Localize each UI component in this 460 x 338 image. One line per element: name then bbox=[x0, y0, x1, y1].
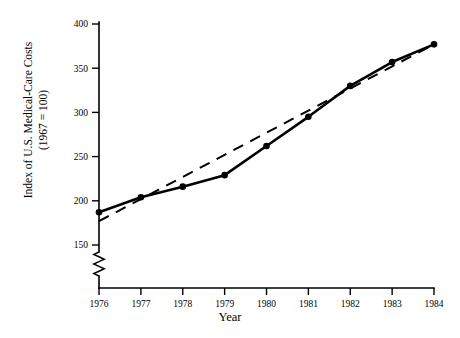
data-point-1977 bbox=[138, 194, 145, 201]
chart-figure: 1502002503003504001976197719781979198019… bbox=[0, 0, 460, 338]
y-axis-title: Index of U.S. Medical-Care Costs (1967 =… bbox=[21, 30, 51, 210]
data-point-1979 bbox=[221, 172, 228, 179]
y-axis-title-line1: Index of U.S. Medical-Care Costs bbox=[21, 30, 36, 210]
y-tick-label-400: 400 bbox=[74, 19, 89, 29]
x-axis-title: Year bbox=[0, 310, 460, 325]
y-tick-label-350: 350 bbox=[74, 64, 89, 74]
x-tick-label-1983: 1983 bbox=[383, 299, 402, 309]
data-line-solid bbox=[99, 44, 434, 212]
data-point-1981 bbox=[305, 114, 312, 121]
tick-marks-group bbox=[92, 24, 434, 295]
data-point-1976 bbox=[96, 209, 103, 216]
x-tick-label-1980: 1980 bbox=[257, 299, 276, 309]
axis-break-zigzag bbox=[94, 252, 104, 276]
data-point-1984 bbox=[431, 41, 438, 48]
x-tick-label-1976: 1976 bbox=[90, 299, 109, 309]
x-tick-label-1982: 1982 bbox=[341, 299, 360, 309]
data-point-1983 bbox=[389, 59, 396, 66]
series-path-observed bbox=[99, 44, 434, 212]
x-tick-label-1979: 1979 bbox=[215, 299, 234, 309]
x-tick-label-1984: 1984 bbox=[425, 299, 444, 309]
y-axis-break-icon bbox=[94, 252, 104, 276]
y-tick-label-200: 200 bbox=[74, 196, 89, 206]
data-point-markers bbox=[96, 41, 438, 216]
x-tick-label-1981: 1981 bbox=[299, 299, 318, 309]
y-tick-label-300: 300 bbox=[74, 108, 89, 118]
data-point-1982 bbox=[347, 83, 354, 90]
chart-plot-area: 1502002503003504001976197719781979198019… bbox=[0, 0, 460, 338]
axes-group bbox=[99, 22, 434, 288]
y-axis-title-line2: (1967 = 100) bbox=[36, 30, 51, 210]
x-tick-label-1978: 1978 bbox=[173, 299, 192, 309]
data-point-1978 bbox=[179, 183, 186, 190]
data-point-1980 bbox=[263, 143, 270, 150]
y-tick-label-150: 150 bbox=[74, 240, 89, 250]
y-tick-label-250: 250 bbox=[74, 152, 89, 162]
x-axis-title-label: Year bbox=[218, 310, 241, 324]
x-tick-label-1977: 1977 bbox=[131, 299, 150, 309]
